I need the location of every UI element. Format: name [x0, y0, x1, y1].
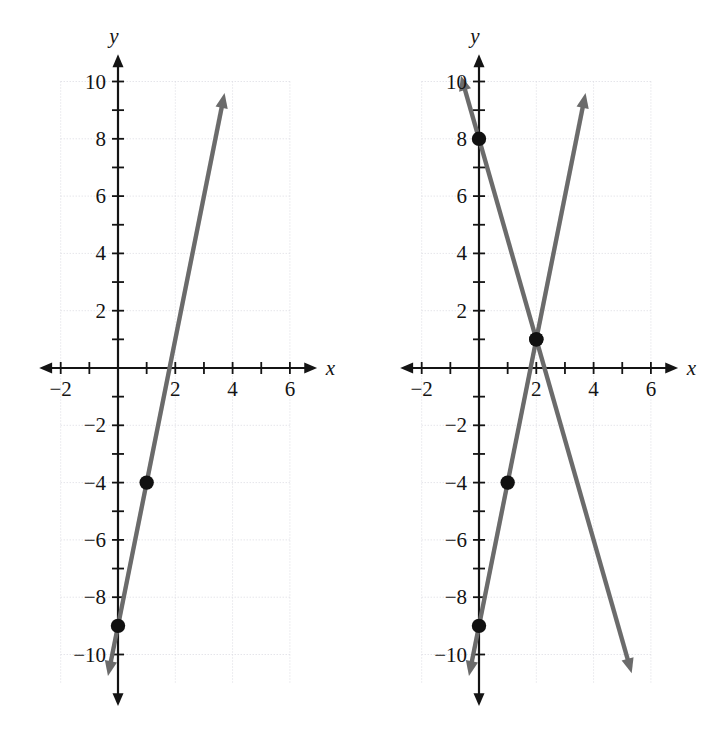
y-tick-label: 10 — [446, 70, 467, 94]
y-tick-label: 8 — [457, 127, 468, 151]
y-tick-label: −4 — [445, 471, 468, 495]
y-tick-label: −10 — [434, 643, 467, 667]
y-tick-label: 4 — [457, 241, 468, 265]
x-tick-label: 6 — [285, 377, 296, 401]
y-axis-label: y — [468, 24, 480, 48]
data-lines-layer — [459, 76, 633, 676]
data-point — [472, 619, 486, 633]
y-tick-label: 6 — [457, 184, 468, 208]
data-line-arrow-end — [622, 657, 634, 673]
data-point — [529, 332, 543, 346]
y-tick-label: −2 — [84, 413, 106, 437]
y-tick-label: −8 — [445, 585, 467, 609]
data-line — [110, 101, 223, 668]
data-lines-layer — [105, 93, 228, 676]
y-axis-arrow-up — [113, 54, 124, 67]
y-tick-label: −8 — [84, 585, 106, 609]
y-tick-label: −6 — [445, 528, 467, 552]
data-point — [500, 475, 514, 489]
y-axis-arrow-down — [474, 693, 485, 706]
x-tick-label: 6 — [646, 377, 657, 401]
y-tick-label: 2 — [457, 299, 468, 323]
y-tick-label: −2 — [445, 413, 467, 437]
data-line — [471, 101, 584, 668]
data-line-arrow-end — [577, 93, 589, 109]
data-line-arrow-start — [105, 660, 117, 676]
plot-panel-left: −2246108642−2−4−6−8−10xy — [0, 0, 360, 756]
data-point — [139, 475, 153, 489]
y-tick-label: 8 — [96, 127, 107, 151]
x-tick-label: −2 — [411, 377, 433, 401]
y-tick-label: −4 — [84, 471, 107, 495]
x-axis-label: x — [325, 356, 336, 380]
y-tick-label: 10 — [85, 70, 106, 94]
data-line-arrow-end — [216, 93, 228, 109]
y-axis-arrow-down — [113, 693, 124, 706]
y-tick-label: −6 — [84, 528, 106, 552]
tick-labels-layer: −2246108642−2−4−6−8−10xy — [411, 24, 697, 667]
x-tick-label: −2 — [50, 377, 72, 401]
x-axis-arrow-right — [304, 363, 317, 374]
x-axis-arrow-left — [39, 363, 52, 374]
data-line-arrow-start — [466, 660, 478, 676]
y-axis-label: y — [107, 24, 119, 48]
plot-panel-right: −2246108642−2−4−6−8−10xy — [360, 0, 722, 756]
y-tick-label: 4 — [96, 241, 107, 265]
x-tick-label: 2 — [531, 377, 542, 401]
x-axis-arrow-right — [665, 363, 678, 374]
tick-labels-layer: −2246108642−2−4−6−8−10xy — [50, 24, 336, 667]
x-tick-label: 2 — [170, 377, 181, 401]
data-point — [111, 619, 125, 633]
y-tick-label: 2 — [96, 299, 107, 323]
figure-canvas: −2246108642−2−4−6−8−10xy −2246108642−2−4… — [0, 0, 722, 756]
x-tick-label: 4 — [227, 377, 238, 401]
y-tick-label: −10 — [73, 643, 106, 667]
x-tick-label: 4 — [588, 377, 599, 401]
y-axis-arrow-up — [474, 54, 485, 67]
x-axis-arrow-left — [400, 363, 413, 374]
data-point — [472, 132, 486, 146]
x-axis-label: x — [686, 356, 697, 380]
y-tick-label: 6 — [96, 184, 107, 208]
